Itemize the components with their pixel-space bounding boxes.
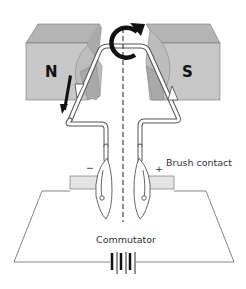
brush-contact-label: Brush contact — [166, 157, 232, 168]
positive-terminal-label: + — [155, 163, 163, 174]
circuit-wire — [14, 191, 234, 262]
commutator-label: Commutator — [96, 234, 156, 245]
north-magnet — [26, 24, 102, 100]
south-pole-label: S — [182, 63, 193, 81]
battery-icon — [112, 252, 135, 274]
north-pole-label: N — [45, 63, 58, 81]
south-magnet — [146, 24, 220, 100]
rotation-arrow-icon — [111, 23, 145, 58]
dc-motor-diagram: N S — [0, 0, 246, 289]
negative-terminal-label: − — [86, 162, 94, 173]
